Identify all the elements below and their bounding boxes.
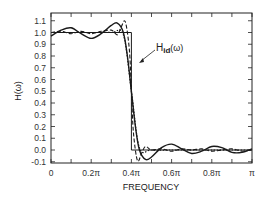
y-tick-label: 0.1 (34, 133, 46, 143)
y-tick-label: 0.9 (34, 39, 46, 49)
y-axis-title: H(ω) (13, 81, 23, 101)
x-axis-title: FREQUENCY (123, 182, 180, 192)
ideal-response-annotation: Hid(ω) (139, 42, 183, 63)
y-tick-label: 0.6 (34, 75, 46, 85)
y-tick-label: 0.8 (34, 51, 46, 61)
y-tick-label: 1.1 (34, 16, 46, 26)
y-tick-label: 0.0 (34, 145, 46, 155)
plot-frame (51, 13, 252, 163)
ideal-response-line (51, 33, 252, 151)
frequency-response-chart: 1.11.00.90.80.70.60.50.40.30.20.10.0-0.1… (0, 0, 265, 203)
x-tick-label: 0.4π (123, 168, 141, 178)
annotation-main: H (156, 42, 163, 53)
svg-text:Hid(ω): Hid(ω) (156, 42, 183, 55)
y-axis-ticks: 1.11.00.90.80.70.60.50.40.30.20.10.0-0.1 (31, 16, 252, 167)
x-tick-label: 0 (49, 168, 54, 178)
response-curve-dashed (51, 21, 252, 162)
y-tick-label: 0.3 (34, 110, 46, 120)
plot-curves (51, 21, 252, 162)
x-tick-label: 0.6π (163, 168, 181, 178)
y-tick-label: 0.4 (34, 98, 46, 108)
y-tick-label: 0.5 (34, 86, 46, 96)
y-tick-label: -0.1 (31, 157, 46, 167)
y-tick-label: 0.7 (34, 63, 46, 73)
y-tick-label: 0.2 (34, 122, 46, 132)
response-curve-solid (51, 23, 252, 160)
x-axis-ticks: 00.2π0.4π0.6π0.8ππ (49, 13, 255, 178)
x-tick-label: 0.8π (203, 168, 221, 178)
x-tick-label: π (249, 168, 255, 178)
x-tick-label: 0.2π (82, 168, 100, 178)
response-curve-dotted (51, 30, 252, 153)
y-tick-label: 1.0 (34, 28, 46, 38)
annotation-suffix: (ω) (170, 43, 183, 53)
